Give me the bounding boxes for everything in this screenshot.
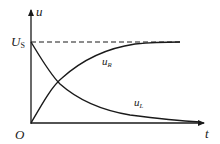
us-level-label: US [11,35,25,50]
diagram-canvas [0,0,220,144]
ur-label-sub: R [108,61,112,68]
ur-curve-label: uR [102,56,112,69]
ul-curve [31,42,200,122]
us-label-main: U [11,34,20,49]
origin-label: O [15,128,24,141]
rl-transient-diagram: u t O US uR uL [0,0,220,144]
us-label-sub: S [20,41,24,50]
ul-curve-label: uL [134,97,143,110]
ul-label-sub: L [140,102,144,109]
y-axis-label: u [36,5,43,18]
x-axis-label: t [205,127,209,140]
